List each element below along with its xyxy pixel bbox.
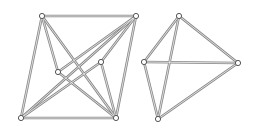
right-graph-node-R [235, 60, 240, 65]
right-graph-node-Q [141, 59, 146, 64]
left-graph-node-C [55, 69, 60, 74]
left-graph-edge-AC [42, 16, 58, 72]
left-graph-node-F [113, 115, 118, 120]
right-graph-edge-QS [144, 62, 158, 119]
right-graph-node-P [176, 13, 181, 18]
right-graph-node-S [155, 116, 160, 121]
left-graph-node-E [18, 115, 23, 120]
right-graph-edge-PR [179, 16, 238, 63]
left-graph-node-A [39, 13, 44, 18]
graph-diagram [0, 0, 254, 135]
left-graph-node-D [98, 59, 103, 64]
left-graph-node-B [133, 13, 138, 18]
right-graph-edge-RS [158, 63, 238, 119]
